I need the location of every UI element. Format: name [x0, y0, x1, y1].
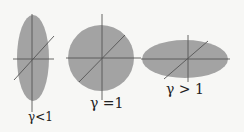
circle-figure	[66, 14, 141, 100]
gamma-less-than-one-label: γ<1	[28, 110, 53, 124]
gamma-equals-one-label: γ =1	[90, 95, 123, 111]
wide-ellipse-figure	[141, 35, 230, 82]
gamma-greater-than-one-label: γ > 1	[166, 81, 204, 97]
tall-ellipse-figure	[13, 14, 54, 112]
tall-ellipse	[17, 15, 49, 101]
